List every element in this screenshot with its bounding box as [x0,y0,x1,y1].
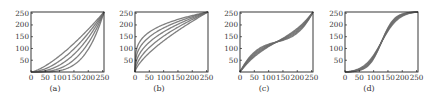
x-tick-label: 100 [367,73,381,82]
y-tick-label: 250 [119,9,133,18]
chart-d: 05010015020025050100150200250 [314,0,424,85]
y-tick-label: 50 [20,56,30,65]
panel-c: 05010015020025050100150200250 (c) [209,0,319,103]
y-tick-label: 150 [119,32,133,41]
panel-a: 05010015020025050100150200250 (a) [0,0,110,103]
y-tick-label: 200 [329,20,343,29]
x-tick-label: 200 [81,73,95,82]
x-tick-label: 200 [395,73,409,82]
x-tick-label: 100 [53,73,67,82]
y-tick-label: 100 [329,44,343,53]
x-tick-label: 0 [29,73,34,82]
x-tick-label: 100 [157,73,171,82]
chart-c: 05010015020025050100150200250 [209,0,319,85]
chart-b: 05010015020025050100150200250 [104,0,214,85]
x-tick-label: 150 [381,73,395,82]
panel-d: 05010015020025050100150200250 (d) [314,0,424,103]
y-tick-label: 200 [224,20,238,29]
chart-a: 05010015020025050100150200250 [0,0,110,85]
curve-5 [240,12,313,72]
y-tick-label: 50 [229,56,239,65]
caption-a: (a) [0,84,110,93]
y-tick-label: 250 [329,9,343,18]
y-tick-label: 100 [15,44,29,53]
y-tick-label: 200 [15,20,29,29]
caption-c: (c) [209,84,319,93]
caption-b: (b) [104,84,214,93]
x-tick-label: 0 [133,73,138,82]
y-tick-label: 250 [224,9,238,18]
y-tick-label: 50 [334,56,344,65]
y-tick-label: 150 [329,32,343,41]
x-tick-label: 200 [290,73,304,82]
x-tick-label: 50 [41,73,51,82]
x-tick-label: 150 [171,73,185,82]
x-tick-label: 150 [67,73,81,82]
curve-1 [135,12,208,72]
x-tick-label: 200 [185,73,199,82]
caption-d: (d) [314,84,424,93]
y-tick-label: 250 [15,9,29,18]
curve-5 [31,12,104,72]
x-tick-label: 50 [145,73,155,82]
x-tick-label: 50 [250,73,260,82]
panel-b: 05010015020025050100150200250 (b) [104,0,214,103]
curve-5 [345,12,418,72]
x-tick-label: 100 [262,73,276,82]
x-tick-label: 0 [238,73,243,82]
x-tick-label: 150 [276,73,290,82]
x-tick-label: 50 [355,73,365,82]
y-tick-label: 200 [119,20,133,29]
y-tick-label: 100 [224,44,238,53]
y-tick-label: 50 [124,56,134,65]
y-tick-label: 150 [224,32,238,41]
x-tick-label: 0 [343,73,348,82]
y-tick-label: 150 [15,32,29,41]
y-tick-label: 100 [119,44,133,53]
x-tick-label: 250 [410,73,424,82]
